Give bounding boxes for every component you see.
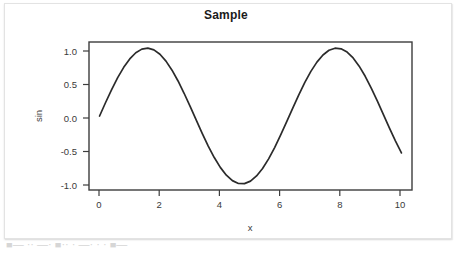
x-tick-label: 10 bbox=[395, 199, 406, 210]
y-tick-marks bbox=[83, 51, 89, 185]
x-tick-label: 4 bbox=[217, 199, 222, 210]
x-axis-title: x bbox=[248, 222, 253, 233]
clipped-caption: ■— ·· —· ■·· · —· · · ■— bbox=[6, 243, 306, 254]
x-tick-label: 6 bbox=[277, 199, 282, 210]
x-tick-marks bbox=[99, 190, 400, 196]
clipped-caption-text: ■— ·· —· ■·· · —· · · ■— bbox=[6, 243, 306, 250]
x-tick-labels: 0 2 4 6 8 10 bbox=[96, 199, 405, 210]
y-tick-labels: 1.0 0.5 0.0 -0.5 -1.0 bbox=[61, 46, 77, 191]
sine-curve bbox=[100, 48, 402, 184]
x-tick-label: 0 bbox=[96, 199, 101, 210]
y-tick-label: 1.0 bbox=[64, 46, 77, 57]
screenshot-root: Sample 1.0 0.5 0.0 -0.5 -1.0 0 bbox=[0, 0, 460, 254]
x-tick-label: 8 bbox=[337, 199, 342, 210]
y-axis-title: sin bbox=[33, 110, 44, 122]
plot-canvas: 1.0 0.5 0.0 -0.5 -1.0 0 2 4 6 8 10 x sin bbox=[0, 0, 460, 254]
y-tick-label: -1.0 bbox=[61, 180, 77, 191]
y-tick-label: 0.5 bbox=[64, 79, 77, 90]
y-tick-label: 0.0 bbox=[64, 113, 77, 124]
plot-frame bbox=[89, 42, 412, 190]
x-tick-label: 2 bbox=[157, 199, 162, 210]
y-tick-label: -0.5 bbox=[61, 146, 77, 157]
